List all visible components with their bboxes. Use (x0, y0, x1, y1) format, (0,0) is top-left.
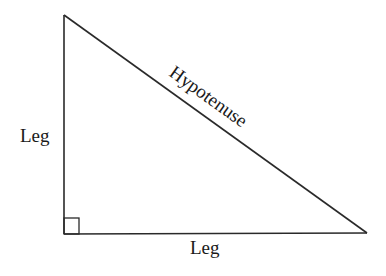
bottom-leg-label: Leg (190, 237, 220, 258)
triangle (64, 15, 367, 234)
left-leg-label: Leg (20, 125, 50, 146)
hypotenuse-line (64, 15, 367, 233)
right-triangle-diagram: Leg Leg Hypotenuse (0, 0, 386, 276)
bottom-leg-line (64, 233, 367, 234)
hypotenuse-label: Hypotenuse (166, 61, 252, 131)
right-angle-marker (64, 218, 79, 234)
